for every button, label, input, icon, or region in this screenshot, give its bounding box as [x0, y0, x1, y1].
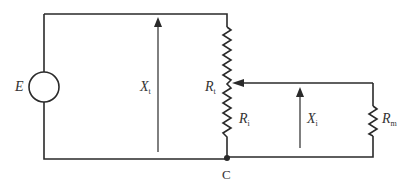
- label-e: E: [15, 80, 24, 94]
- node-c-dot: [224, 155, 230, 161]
- label-node-c: C: [222, 168, 231, 181]
- label-xi: Xi: [307, 112, 318, 128]
- xt-arrowhead-icon: [154, 17, 162, 27]
- top-wire: [44, 14, 227, 27]
- label-rm: Rm: [382, 112, 397, 128]
- voltage-source-icon: [29, 72, 59, 102]
- wiper-arrowhead-icon: [232, 79, 244, 87]
- label-xt: Xt: [140, 80, 151, 96]
- potentiometer-icon: [223, 27, 231, 158]
- left-wire-bottom: [44, 102, 227, 159]
- label-ri: Ri: [239, 112, 250, 128]
- circuit-diagram: E Xt Rt Ri Xi Rm C: [0, 0, 410, 188]
- label-rt: Rt: [205, 80, 216, 96]
- xi-arrowhead-icon: [296, 87, 304, 97]
- load-resistor-icon: [369, 106, 377, 136]
